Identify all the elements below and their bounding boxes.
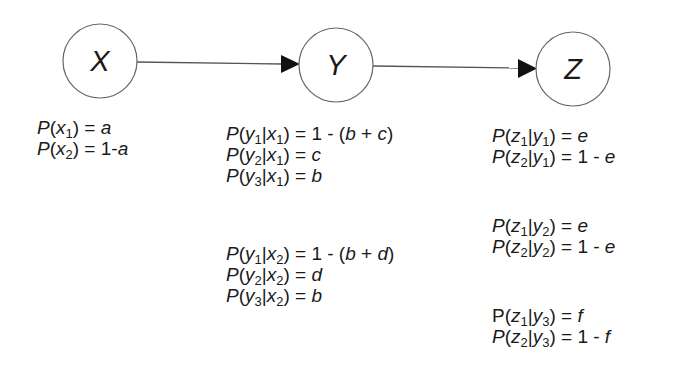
edge-x-to-y [137, 55, 300, 73]
value: d [311, 264, 322, 285]
equals: = 1- [79, 138, 118, 159]
z-prob-row: P(z2|y2) = 1 - e [492, 236, 615, 257]
y-prob-row: P(y1|x1) = 1 - (b + c) [226, 123, 394, 144]
equals: = [556, 125, 578, 146]
variable: y [245, 264, 255, 285]
arrowhead-icon [281, 55, 300, 73]
given-variable: x [267, 123, 277, 144]
node-z-label: Z [536, 32, 610, 106]
subscript: 2 [521, 335, 528, 350]
x-probability-table: P(x1) = a P(x2) = 1-a [37, 117, 128, 159]
value: e [605, 236, 616, 257]
given-variable: x [267, 165, 277, 186]
given-variable: x [267, 264, 277, 285]
p-symbol: P [37, 117, 50, 138]
x-prob-row: P(x1) = a [37, 117, 128, 138]
value: e [577, 125, 588, 146]
value: b [345, 123, 356, 144]
variable: y [245, 243, 255, 264]
p-symbol: P [226, 285, 239, 306]
p-symbol: P [226, 243, 239, 264]
variable: x [56, 138, 66, 159]
p-symbol: P [37, 138, 50, 159]
given-variable: x [267, 243, 277, 264]
variable: z [511, 326, 521, 347]
z-prob-row: P(z1|y2) = e [492, 215, 615, 236]
given-variable: y [533, 305, 543, 326]
variable: y [245, 165, 255, 186]
subscript: 2 [521, 245, 528, 260]
node-y-label: Y [299, 28, 373, 102]
y-prob-row: P(y2|x2) = d [226, 264, 394, 285]
z-prob-row: P(z1|y1) = e [492, 125, 615, 146]
value: d [377, 243, 388, 264]
variable: y [245, 123, 255, 144]
equals: = 1 - [556, 236, 605, 257]
subscript: 3 [255, 174, 262, 189]
equals: = 1 - [556, 146, 605, 167]
equals: = [290, 264, 312, 285]
variable: z [511, 125, 521, 146]
given-variable: y [533, 125, 543, 146]
value: b [345, 243, 356, 264]
value: f [577, 305, 582, 326]
variable: y [245, 144, 255, 165]
p-symbol: P [492, 236, 505, 257]
node-x-label: X [63, 24, 137, 98]
plus: + [356, 123, 378, 144]
value: f [605, 326, 610, 347]
value: e [605, 146, 616, 167]
variable: z [511, 236, 521, 257]
z-prob-row: P(z2|y1) = 1 - e [492, 146, 615, 167]
plus: + [356, 243, 378, 264]
equals: = [290, 165, 312, 186]
subscript: 3 [255, 294, 262, 309]
value: a [101, 117, 112, 138]
p-symbol: P [492, 305, 505, 326]
p-symbol: P [492, 146, 505, 167]
p-symbol: P [492, 125, 505, 146]
z-probability-table: P(z1|y1) = e P(z2|y1) = 1 - e P(z1|y2) =… [492, 125, 615, 347]
p-symbol: P [226, 144, 239, 165]
equals: = [556, 215, 578, 236]
equals: = [290, 285, 312, 306]
p-symbol: P [492, 215, 505, 236]
equals: = 1 - ( [290, 243, 345, 264]
variable: y [245, 285, 255, 306]
variable: z [511, 146, 521, 167]
y-prob-row: P(y3|x2) = b [226, 285, 394, 306]
arrowhead-icon [518, 59, 537, 78]
y-prob-row: P(y1|x2) = 1 - (b + d) [226, 243, 394, 264]
paren: ) [388, 243, 394, 264]
equals: = 1 - ( [290, 123, 345, 144]
z-prob-row: P(z1|y3) = f [492, 305, 615, 326]
p-symbol: P [226, 165, 239, 186]
subscript: 2 [66, 147, 73, 162]
subscript: 2 [521, 155, 528, 170]
given-variable: y [533, 236, 543, 257]
given-variable: x [267, 144, 277, 165]
value: c [377, 123, 387, 144]
equals: = 1 - [556, 326, 605, 347]
given-variable: x [267, 285, 277, 306]
y-prob-row: P(y3|x1) = b [226, 165, 394, 186]
value: e [577, 215, 588, 236]
given-variable: y [533, 215, 543, 236]
y-prob-row: P(y2|x1) = c [226, 144, 394, 165]
x-prob-row: P(x2) = 1-a [37, 138, 128, 159]
z-prob-row: P(z2|y3) = 1 - f [492, 326, 615, 347]
p-symbol: P [226, 123, 239, 144]
p-symbol: P [492, 326, 505, 347]
equals: = [290, 144, 312, 165]
equals: = [556, 305, 578, 326]
edge-y-to-z [373, 59, 537, 78]
paren: ) [387, 123, 393, 144]
variable: z [511, 305, 521, 326]
given-variable: y [533, 146, 543, 167]
p-symbol: P [226, 264, 239, 285]
variable: z [511, 215, 521, 236]
equals: = [79, 117, 101, 138]
value: c [311, 144, 321, 165]
value: b [311, 165, 322, 186]
given-variable: y [533, 326, 543, 347]
